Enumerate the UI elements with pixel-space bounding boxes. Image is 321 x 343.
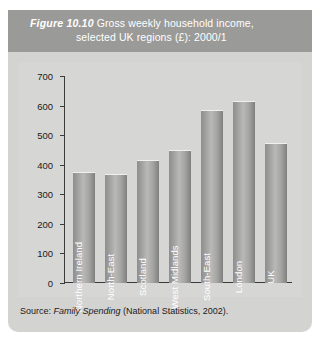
bar-label-2: Scotland bbox=[137, 258, 148, 296]
y-tick-label-400: 400 bbox=[37, 159, 53, 170]
bar-label-5: London bbox=[233, 261, 244, 293]
source-prefix: Source: bbox=[20, 306, 51, 316]
figure-number: Figure 10.10 bbox=[30, 17, 94, 29]
bar-label-6: UK bbox=[265, 270, 276, 283]
bar-4: South-East bbox=[201, 110, 223, 283]
source-suffix: (National Statistics, 2002). bbox=[123, 306, 228, 316]
bar-5: London bbox=[233, 101, 255, 283]
bar-series: Northern Ireland North-East Scotland Wes… bbox=[64, 76, 292, 283]
chart-plot-area: 0 100 200 300 400 500 600 bbox=[18, 62, 302, 297]
y-tick-label-300: 300 bbox=[37, 189, 53, 200]
figure-title-text-1: Gross weekly household income, bbox=[97, 17, 254, 29]
figure-title-line-2: selected UK regions (£): 2000/1 bbox=[30, 30, 298, 44]
figure-panel: Figure 10.10 Gross weekly household inco… bbox=[8, 10, 312, 332]
figure-title-line-1: Figure 10.10 Gross weekly household inco… bbox=[30, 16, 298, 30]
bar-label-0: Northern Ireland bbox=[73, 242, 84, 312]
bar-6: UK bbox=[265, 143, 287, 283]
bar-label-1: North-East bbox=[105, 254, 116, 300]
y-tick-label-500: 500 bbox=[37, 130, 53, 141]
bar-0: Northern Ireland bbox=[73, 172, 95, 283]
figure-title-band: Figure 10.10 Gross weekly household inco… bbox=[8, 10, 312, 52]
y-tick-0: 0 bbox=[60, 283, 65, 284]
bar-1: North-East bbox=[105, 174, 127, 283]
figure-source: Source: Family Spending (National Statis… bbox=[20, 306, 228, 316]
y-tick-label-600: 600 bbox=[37, 100, 53, 111]
y-tick-label-0: 0 bbox=[48, 278, 53, 289]
bar-label-4: South-East bbox=[201, 253, 212, 301]
bar-3: West Midlands bbox=[169, 150, 191, 283]
bar-2: Scotland bbox=[137, 160, 159, 283]
bar-label-3: West Midlands bbox=[169, 245, 180, 308]
figure-screenshot: Figure 10.10 Gross weekly household inco… bbox=[0, 0, 321, 343]
y-tick-label-700: 700 bbox=[37, 71, 53, 82]
chart-axes: 0 100 200 300 400 500 600 bbox=[64, 76, 292, 283]
y-tick-label-200: 200 bbox=[37, 218, 53, 229]
y-tick-label-100: 100 bbox=[37, 248, 53, 259]
source-publication: Family Spending bbox=[54, 306, 121, 316]
